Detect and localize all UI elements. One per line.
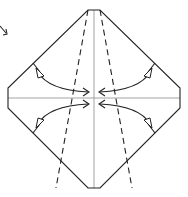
fold-arrow-upper-left [36, 68, 89, 96]
hollow-arrowhead-icon [144, 68, 152, 78]
fold-arrow-lower-right [99, 100, 152, 128]
origami-diagram [0, 0, 188, 197]
hollow-arrowhead-icon [36, 118, 44, 128]
fold-arrow-lower-left [36, 100, 89, 128]
fold-arrow-upper-right [99, 68, 152, 96]
turn-over-arrow-icon [0, 26, 7, 35]
hollow-arrowhead-icon [36, 68, 44, 78]
hollow-arrowhead-icon [144, 118, 152, 128]
